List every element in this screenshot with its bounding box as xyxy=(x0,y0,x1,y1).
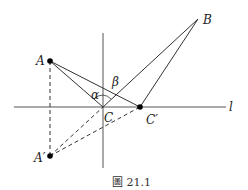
label-a: A xyxy=(35,54,45,68)
label-c: C xyxy=(104,111,113,125)
point-cprime xyxy=(137,104,143,110)
segment-aprime-cprime xyxy=(50,107,140,156)
label-cprime: C′ xyxy=(146,113,158,127)
reflection-diagram: A B A′ C C′ l α β 圖 21.1 xyxy=(0,0,248,190)
figure-caption: 圖 21.1 xyxy=(112,176,151,189)
point-a xyxy=(47,58,53,64)
label-alpha: α xyxy=(91,88,99,102)
label-b: B xyxy=(202,13,212,27)
label-aprime: A′ xyxy=(33,151,46,165)
label-l: l xyxy=(229,100,233,114)
segment-cprime-b xyxy=(140,19,198,107)
label-beta: β xyxy=(111,75,119,89)
point-aprime xyxy=(47,153,53,159)
segment-c-b xyxy=(103,19,198,107)
angle-beta-arc xyxy=(103,95,111,99)
